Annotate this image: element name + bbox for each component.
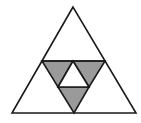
diagram-canvas bbox=[0, 0, 141, 123]
sierpinski-triangle-diagram bbox=[0, 0, 141, 123]
